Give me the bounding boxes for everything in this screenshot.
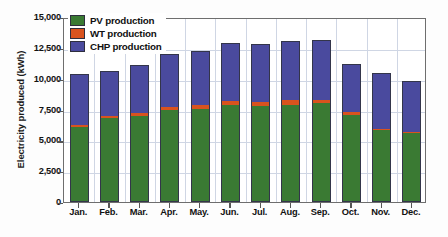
legend-item[interactable]: CHP production xyxy=(70,40,162,53)
gridline-vertical xyxy=(336,19,337,202)
y-axis-tick-label: 7,500 xyxy=(9,105,61,115)
bar-segment-chp xyxy=(403,82,420,131)
legend-swatch-pv xyxy=(70,15,85,26)
bar-column xyxy=(372,73,391,202)
legend-item[interactable]: WT production xyxy=(70,27,162,40)
bar-segment-pv xyxy=(161,110,178,201)
gridline-vertical xyxy=(185,19,186,202)
bar-segment-pv xyxy=(101,118,118,201)
gridline-vertical xyxy=(367,19,368,202)
bar-column xyxy=(70,74,89,202)
gridline-vertical xyxy=(397,19,398,202)
gridline-vertical xyxy=(276,19,277,202)
bar-segment-chp xyxy=(131,66,148,113)
legend-swatch-wt xyxy=(70,28,85,39)
bar-column xyxy=(312,40,331,202)
bar-segment-pv xyxy=(71,127,88,201)
legend-item-label: PV production xyxy=(90,15,154,26)
stacked-bar-chart: Electricity produced (kWh) 02,5005,0007,… xyxy=(0,0,448,237)
bar-column xyxy=(100,71,119,202)
bar-segment-chp xyxy=(222,44,239,101)
bar-segment-chp xyxy=(313,41,330,100)
y-axis-tick-label: 0 xyxy=(9,197,61,207)
y-axis-tick-mark xyxy=(57,203,63,204)
bar-segment-chp xyxy=(101,72,118,116)
bar-segment-chp xyxy=(343,65,360,112)
legend-item-label: CHP production xyxy=(90,41,162,52)
y-axis-tick-label: 5,000 xyxy=(9,135,61,145)
bar-segment-pv xyxy=(131,116,148,201)
bar-column xyxy=(342,64,361,202)
x-axis-tick-label: Dec. xyxy=(391,207,431,217)
bar-segment-pv xyxy=(373,130,390,201)
bar-column xyxy=(130,65,149,202)
bar-segment-pv xyxy=(403,133,420,201)
bar-segment-pv xyxy=(313,103,330,201)
y-axis-tick-label: 2,500 xyxy=(9,166,61,176)
bar-segment-chp xyxy=(71,75,88,125)
gridline-vertical xyxy=(215,19,216,202)
bar-segment-chp xyxy=(161,55,178,107)
bar-column xyxy=(402,81,421,202)
bar-column xyxy=(191,51,210,202)
bar-segment-chp xyxy=(192,52,209,105)
bar-segment-chp xyxy=(373,74,390,128)
legend-item-label: WT production xyxy=(90,28,157,39)
bar-segment-pv xyxy=(343,115,360,201)
bar-segment-chp xyxy=(252,45,269,102)
legend-item[interactable]: PV production xyxy=(70,14,162,27)
bar-segment-chp xyxy=(282,42,299,100)
legend-swatch-chp xyxy=(70,41,85,52)
bar-segment-pv xyxy=(252,106,269,201)
y-axis-tick-label: 10,000 xyxy=(9,74,61,84)
bar-segment-pv xyxy=(192,109,209,201)
bar-column xyxy=(160,54,179,202)
gridline-vertical xyxy=(246,19,247,202)
bar-column xyxy=(281,41,300,202)
gridline-vertical xyxy=(306,19,307,202)
chart-legend: PV productionWT productionCHP production xyxy=(68,13,166,54)
bar-segment-pv xyxy=(282,105,299,201)
y-axis-tick-label: 15,000 xyxy=(9,12,61,22)
bar-column xyxy=(221,43,240,202)
bar-segment-pv xyxy=(222,105,239,201)
y-axis-tick-label: 12,500 xyxy=(9,43,61,53)
bar-column xyxy=(251,44,270,202)
